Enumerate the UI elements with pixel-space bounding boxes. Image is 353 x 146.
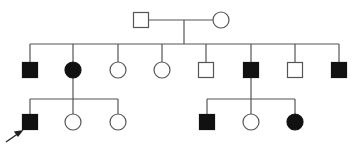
- affected-female-iii-6: [287, 114, 303, 130]
- unaffected-female-iii-5: [243, 114, 259, 130]
- affected-male-iii-1: [23, 115, 38, 130]
- proband-arrow-icon: [6, 131, 22, 142]
- unaffected-male-ii-7: [288, 63, 303, 78]
- pedigree-chart: [0, 0, 353, 146]
- unaffected-female-ii-4: [154, 62, 170, 78]
- affected-male-ii-1: [23, 63, 38, 78]
- unaffected-female-ii-3: [110, 62, 126, 78]
- pedigree-svg: [0, 0, 353, 146]
- affected-female-ii-2: [65, 62, 81, 78]
- affected-male-ii-8: [332, 63, 347, 78]
- unaffected-male-ii-5: [199, 63, 214, 78]
- unaffected-male-i-1: [134, 13, 149, 28]
- unaffected-female-i-2: [213, 12, 229, 28]
- unaffected-female-iii-3: [110, 114, 126, 130]
- affected-male-ii-6: [244, 63, 259, 78]
- unaffected-female-iii-2: [65, 114, 81, 130]
- affected-male-iii-4: [200, 115, 215, 130]
